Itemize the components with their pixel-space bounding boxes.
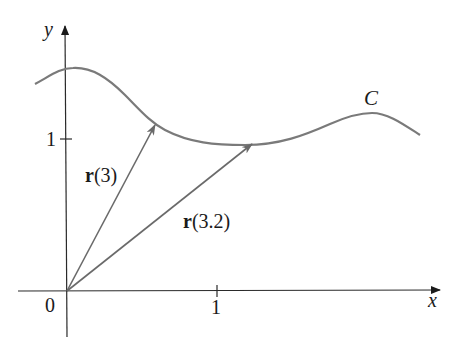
vector-curve-diagram: y x 0 1 1 C r(3) r(3.2) — [0, 0, 453, 348]
x-axis-label: x — [427, 289, 437, 311]
curve-label: C — [364, 86, 379, 110]
curve-c — [35, 68, 420, 145]
origin-label: 0 — [45, 294, 55, 316]
vector-r3-2-arg: (3.2) — [192, 210, 230, 233]
vector-r3-label: r(3) — [85, 164, 117, 187]
vector-r3-name: r — [85, 164, 94, 186]
vector-r3-2-label: r(3.2) — [183, 210, 230, 233]
x-tick-label: 1 — [211, 296, 221, 318]
vector-r3-arg: (3) — [94, 164, 117, 187]
vector-r3-2-name: r — [183, 210, 192, 232]
y-tick-label: 1 — [46, 128, 56, 150]
y-axis-label: y — [42, 18, 53, 41]
x-axis — [18, 290, 440, 291]
vector-r3 — [67, 125, 155, 291]
